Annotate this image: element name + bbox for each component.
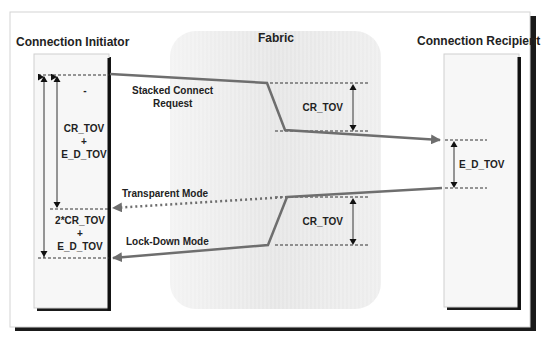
initiator-lifeline — [34, 54, 111, 311]
initiator-bottom-timer-line2: E_D_TOV — [57, 241, 103, 252]
fabric-title: Fabric — [258, 31, 294, 45]
initiator-top-timer-line2: E_D_TOV — [61, 149, 107, 160]
fabric-top-timer: CR_TOV — [303, 102, 344, 113]
initiator-top-dash: - — [83, 85, 86, 96]
sequence-diagram: Connection Initiator Fabric Connection R… — [0, 0, 554, 342]
initiator-title: Connection Initiator — [16, 35, 130, 49]
stacked-connect-label-line2: Request — [153, 98, 193, 109]
initiator-top-timer-plus: + — [81, 136, 87, 147]
recipient-timer: E_D_TOV — [459, 159, 505, 170]
initiator-bottom-timer-plus: + — [77, 228, 83, 239]
fabric-bottom-timer: CR_TOV — [303, 216, 344, 227]
initiator-top-timer-line1: CR_TOV — [64, 123, 105, 134]
initiator-bottom-timer-line1: 2*CR_TOV — [55, 215, 105, 226]
recipient-title: Connection Recipient — [417, 34, 540, 48]
fabric-region — [170, 31, 381, 309]
lockdown-mode-label: Lock-Down Mode — [126, 236, 209, 247]
transparent-mode-label: Transparent Mode — [122, 188, 209, 199]
stacked-connect-label-line1: Stacked Connect — [132, 85, 214, 96]
